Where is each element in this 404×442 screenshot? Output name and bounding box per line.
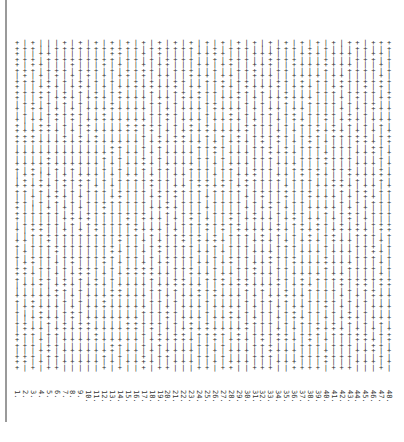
glyph: + [251, 366, 259, 372]
glyph: | [282, 366, 290, 372]
text-line: |+|++|+|+|+|+++|+|+|++|+|+|+|+++|+|+|+|+… [100, 41, 108, 371]
text-line: ++|+++|+|+|++|+|+++|+|+++|+|+||+|+++|+|+… [29, 41, 37, 371]
text-line: ||+|+|+|+++|+|+++|+|+|+||+++|+|+|+++|+|+… [37, 41, 45, 371]
glyph: | [235, 366, 243, 372]
line-number: 37. [298, 390, 306, 424]
text-line: |+|+|+|++|+|+|+++|+|+|+|++|+|+|+|+++|+|+… [132, 41, 140, 371]
line-number-label: 48. [385, 390, 393, 403]
glyph: | [353, 366, 361, 372]
line-number: 23. [187, 390, 195, 424]
glyph: + [338, 366, 346, 372]
text-line: |+|+|+++|+|+|+||+++|+|+|++++|+|+|+||+|+|… [21, 41, 29, 371]
glyph: | [92, 366, 100, 372]
glyph: | [187, 366, 195, 372]
glyph: + [116, 366, 124, 372]
line-number-label: 23. [187, 390, 195, 403]
glyph: + [258, 366, 266, 372]
line-number: 48. [385, 390, 393, 424]
text-line: ||+|+|+|++|+|+|+|+++|+|+|+|++|+|+|+++|+|… [258, 41, 266, 371]
text-line: ++|+|+|+|++|+|+|+++|+|+|+|++|+|+|+++|+|+… [385, 41, 393, 371]
line-number-label: 18. [148, 390, 156, 403]
text-line: ++|+|++|+|+|+|+++|+|+|++|+|+|+|+++|+|+|+… [187, 41, 195, 371]
text-line: ||++|+|+++|+|+|++|+|+++|+|+|+|++|+|+++|+… [45, 41, 53, 371]
glyph: | [108, 366, 116, 372]
line-number-label: 4. [37, 390, 45, 398]
text-line: ++|+|++|+|+|+|+++|+|+|+|++|+|+|+++|+|+|+… [124, 41, 132, 371]
line-number-label: 6. [53, 390, 61, 398]
text-line: +|+|+|+++|+|+|++|+|+|+|+++|+|+|+|++|+|+|… [298, 41, 306, 371]
line-number: 4. [37, 390, 45, 424]
glyph: | [243, 366, 251, 372]
line-number: 39. [314, 390, 322, 424]
glyph: | [171, 366, 179, 372]
glyph: | [274, 366, 282, 372]
glyph: | [179, 366, 187, 372]
glyph: | [21, 366, 29, 372]
line-number: 15. [124, 390, 132, 424]
text-line: |++|+|+|+|++|+|+|+++|+|+|+|++|+|+|+++|+|… [306, 41, 314, 371]
glyph: + [29, 366, 37, 372]
line-number: 14. [116, 390, 124, 424]
line-number-label: 11. [92, 390, 100, 403]
text-line: +|++|+|+|+|++|+|+|+++|+|+|+|++|+|+|+|+++… [369, 41, 377, 371]
text-line: |+|++|+|+|+|+++|+|+|+|++|+|+|+++|+|+|+|+… [163, 41, 171, 371]
text-line: ||+|+|+++|+|+|+|++|+|+|+|+++|+|+|++|+|+|… [338, 41, 346, 371]
text-line: |+|+|++|+|+|+|+++|+|+|+|++|+|+|+++|+|+|+… [84, 41, 92, 371]
glyph: | [68, 366, 76, 372]
line-number: 36. [290, 390, 298, 424]
line-number: 24. [195, 390, 203, 424]
glyph: | [322, 366, 330, 372]
line-number: 28. [227, 390, 235, 424]
left-margin-line [5, 0, 7, 422]
line-number: 41. [330, 390, 338, 424]
glyph: | [37, 366, 45, 372]
line-number-label: 26. [211, 390, 219, 403]
line-number: 40. [322, 390, 330, 424]
text-line: ||+|+|+|+++|+|+|+|++|+|+|+++|+|+|+|++|+|… [195, 41, 203, 371]
text-line: +|+|+++|+|+|+|++|+|+|+|+++|+|+|++|+|+|+|… [251, 41, 259, 371]
line-number-label: 15. [124, 390, 132, 403]
line-number-label: 29. [235, 390, 243, 403]
line-number-label: 27. [219, 390, 227, 403]
line-number: 29. [235, 390, 243, 424]
glyph: | [369, 366, 377, 372]
line-number: 26. [211, 390, 219, 424]
glyph: | [361, 366, 369, 372]
line-number-label: 42. [338, 390, 346, 403]
glyph: + [163, 366, 171, 372]
text-line: ++|+|+|+|++|+|+|+++|+|+|+|++|+|+|+++|+|+… [92, 41, 100, 371]
line-number-label: 25. [203, 390, 211, 403]
glyph: | [148, 366, 156, 372]
line-number-label: 1. [13, 390, 21, 398]
line-number: 17. [140, 390, 148, 424]
text-line: |+|++|+|+|+|+++|+|+|+|++|+|+|+|+++|+|+|+… [290, 41, 298, 371]
line-number: 38. [306, 390, 314, 424]
line-number-label: 2. [21, 390, 29, 398]
line-number-label: 35. [282, 390, 290, 403]
glyph: + [195, 366, 203, 372]
line-number-label: 16. [132, 390, 140, 403]
text-line: ++|+|+|+|++|+|+|+++|+|+|++|+|+|+|+++|+|+… [353, 41, 361, 371]
glyph: + [290, 366, 298, 372]
text-line: |+|+|+|+++|+|+|++|+|+|+|+++|+|+|+|++|+|+… [148, 41, 156, 371]
line-number-label: 41. [330, 390, 338, 403]
text-line: |++|+|+|+++|+|+|+|++|+|+|+|+++|+|+|++|+|… [116, 41, 124, 371]
text-line: |+|+|+|+|++|+|+|+++|+|+|+|++|+|+|+|+++|+… [179, 41, 187, 371]
text-line: |+++|+|+|+|++|+|+|+++|+|+|++|+|+|+|+++|+… [211, 41, 219, 371]
text-line: |+|+|+|++|+|+|+|+++|+|+|++|+|+|+|+++|+|+… [274, 41, 282, 371]
text-line: +|+|+|++|+|+|+|+++|+|+|++|+|+|+|+++|+|+|… [314, 41, 322, 371]
text-line: ++|+|+|+|++|+|+|+++|+|+|+|++|+|+|+++|+|+… [235, 41, 243, 371]
line-number-label: 28. [227, 390, 235, 403]
glyph: | [61, 366, 69, 372]
line-number: 2. [21, 390, 29, 424]
line-number: 5. [45, 390, 53, 424]
text-line: +|+|++|+|+|+|+++|+|+|+|++|+|+|+++|+|+|+|… [346, 41, 354, 371]
glyph: + [306, 366, 314, 372]
text-line: +|+|+|++|+|+|+|+++|+|+|+|++|+|+|+++|+|+|… [203, 41, 211, 371]
glyph: + [219, 366, 227, 372]
line-number: 16. [132, 390, 140, 424]
glyph: + [330, 366, 338, 372]
text-line: +|+|+|+++|+|+|+|++|+|+|+|+++|+|+|++|+|+|… [219, 41, 227, 371]
glyph: + [377, 366, 385, 372]
glyph: + [100, 366, 108, 372]
